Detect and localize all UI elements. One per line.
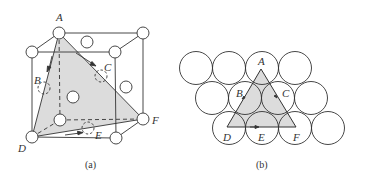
label-f-b: F — [292, 131, 300, 143]
atom-corner — [54, 114, 66, 126]
label-b-b: B — [236, 87, 243, 99]
atom-f — [137, 113, 149, 125]
label-c-b: C — [282, 87, 290, 99]
label-b: B — [34, 74, 41, 86]
label-e: E — [94, 129, 102, 141]
label-c: C — [104, 61, 112, 73]
atom-face-right — [120, 81, 132, 93]
caption-a: (a) — [85, 159, 96, 171]
atom-corner — [110, 132, 122, 144]
label-d-b: D — [222, 131, 231, 143]
label-f: F — [151, 114, 159, 126]
label-d: D — [17, 142, 26, 154]
atom-corner — [26, 46, 38, 58]
atom-corner — [109, 46, 121, 58]
label-a: A — [55, 11, 63, 23]
atom-face-center — [67, 91, 79, 103]
label-a-b: A — [257, 55, 265, 67]
label-e-b: E — [257, 131, 265, 143]
atom-face-top — [81, 36, 93, 48]
atom-d — [26, 131, 38, 143]
atom-a — [53, 27, 65, 39]
atom-corner — [137, 27, 149, 39]
figure: A B C D E F (a) A B C D E F (b) — [0, 0, 368, 185]
caption-b: (b) — [256, 159, 268, 171]
